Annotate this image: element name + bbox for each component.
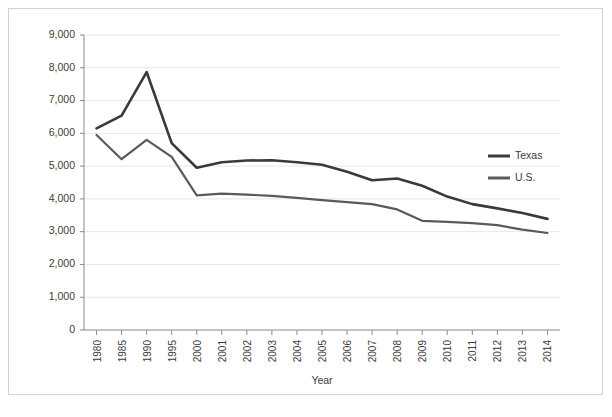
y-axis-tick-label: 6,000: [49, 126, 75, 138]
legend-label-us: U.S.: [515, 171, 535, 183]
x-axis-tick-label: 2005: [317, 340, 328, 363]
x-axis-tick-label: 2001: [217, 340, 228, 363]
x-axis-tick-label: 2003: [267, 340, 278, 363]
chart-container: 01,0002,0003,0004,0005,0006,0007,0008,00…: [0, 0, 612, 417]
x-axis-tick-labels: 1980198519901995200020012002200320042005…: [92, 340, 554, 363]
y-axis-tick-label: 4,000: [49, 192, 75, 204]
y-axis-tick-label: 2,000: [49, 257, 75, 269]
line-chart: 01,0002,0003,0004,0005,0006,0007,0008,00…: [0, 0, 612, 417]
y-axis-tick-label: 1,000: [49, 290, 75, 302]
x-axis-tick-label: 2009: [417, 340, 428, 363]
x-axis-tick-label: 2004: [292, 340, 303, 363]
x-axis-tick-label: 2014: [542, 340, 553, 363]
x-axis-tick-label: 1995: [167, 340, 178, 363]
x-axis-tick-label: 2002: [242, 340, 253, 363]
legend-label-texas: Texas: [515, 149, 542, 161]
x-axis-tick-label: 2013: [517, 340, 528, 363]
data-series-group: [97, 72, 548, 233]
series-line-us: [97, 135, 548, 233]
y-tick-marks-group: [80, 35, 84, 330]
y-axis-tick-label: 3,000: [49, 224, 75, 236]
x-axis-tick-label: 1990: [142, 340, 153, 363]
y-axis-tick-label: 5,000: [49, 159, 75, 171]
x-axis-tick-label: 2000: [192, 340, 203, 363]
y-axis-tick-label: 7,000: [49, 93, 75, 105]
x-axis-tick-label: 2008: [392, 340, 403, 363]
series-line-texas: [97, 72, 548, 219]
y-axis-tick-labels: 01,0002,0003,0004,0005,0006,0007,0008,00…: [49, 28, 75, 335]
x-axis-tick-label: 2007: [367, 340, 378, 363]
x-axis-tick-label: 2012: [492, 340, 503, 363]
x-axis-tick-label: 2006: [342, 340, 353, 363]
x-axis-tick-label: 2011: [467, 340, 478, 362]
x-axis-tick-label: 1985: [117, 340, 128, 363]
y-axis-tick-label: 9,000: [49, 28, 75, 40]
x-axis-tick-label: 1980: [92, 340, 103, 363]
x-axis-tick-label: 2010: [442, 340, 453, 363]
y-axis-tick-label: 0: [69, 323, 75, 335]
x-tick-marks-group: [97, 330, 548, 335]
x-axis-title: Year: [311, 374, 333, 386]
y-axis-tick-label: 8,000: [49, 61, 75, 73]
